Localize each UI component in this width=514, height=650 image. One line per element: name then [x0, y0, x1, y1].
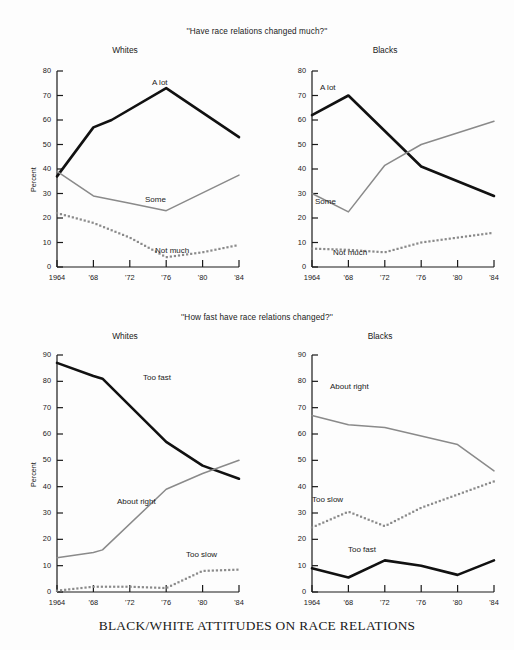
y-tick-label: 50 — [23, 140, 51, 149]
y-tick-label: 10 — [23, 561, 51, 570]
x-tick-label: '84 — [474, 273, 514, 282]
x-tick-label: '80 — [438, 598, 478, 607]
series-annotation-some: Some — [315, 197, 336, 206]
y-tick-label: 10 — [278, 238, 306, 247]
series-too-slow — [311, 480, 495, 528]
y-tick-label: 60 — [278, 429, 306, 438]
y-tick-label: 0 — [278, 262, 306, 271]
chart-figure: ''Have race relations changed much?'' Wh… — [0, 0, 514, 650]
x-tick-label: '72 — [110, 598, 150, 607]
x-tick-label: '68 — [328, 273, 368, 282]
y-tick-label: 0 — [23, 262, 51, 271]
x-tick-label: '76 — [146, 273, 186, 282]
series-a-lot — [312, 96, 494, 196]
y-tick-label: 50 — [278, 140, 306, 149]
x-tick-label: '68 — [73, 273, 113, 282]
y-tick-label: 20 — [23, 534, 51, 543]
series-too-slow — [56, 569, 239, 592]
y-tick-label: 80 — [23, 66, 51, 75]
y-tick-label: 70 — [23, 403, 51, 412]
x-tick-label: '68 — [328, 598, 368, 607]
series-annotation-too-slow: Too slow — [312, 495, 343, 504]
y-tick-label: 50 — [278, 455, 306, 464]
y-tick-label: 90 — [278, 350, 306, 359]
series-annotation-a-lot: A lot — [152, 78, 168, 87]
y-tick-label: 30 — [23, 508, 51, 517]
y-tick-label: 20 — [23, 213, 51, 222]
x-tick-label: '72 — [365, 598, 405, 607]
series-annotation-a-lot: A lot — [320, 83, 336, 92]
series-annotation-too-fast: Too fast — [348, 545, 376, 554]
y-tick-label: 30 — [278, 189, 306, 198]
y-tick-label: 40 — [278, 164, 306, 173]
series-some — [312, 121, 494, 212]
y-tick-label: 80 — [278, 66, 306, 75]
plot-lines-layer — [0, 0, 514, 650]
y-tick-label: 30 — [278, 508, 306, 517]
y-tick-label: 80 — [278, 376, 306, 385]
x-tick-label: '72 — [365, 273, 405, 282]
y-tick-label: 60 — [278, 115, 306, 124]
series-not-much — [56, 212, 237, 258]
x-tick-label: 1964 — [292, 273, 332, 282]
x-tick-label: '84 — [219, 598, 259, 607]
y-tick-label: 90 — [23, 350, 51, 359]
x-tick-label: 1964 — [37, 273, 77, 282]
series-annotation-about-right: About right — [117, 497, 156, 506]
series-annotation-not-much: Not much — [333, 248, 367, 257]
series-too-fast — [312, 560, 494, 577]
y-tick-label: 80 — [23, 376, 51, 385]
y-tick-label: 0 — [278, 587, 306, 596]
series-annotation-about-right: About right — [330, 382, 369, 391]
x-tick-label: '76 — [146, 598, 186, 607]
y-tick-label: 70 — [278, 91, 306, 100]
y-tick-label: 50 — [23, 455, 51, 464]
y-tick-label: 30 — [23, 189, 51, 198]
y-tick-label: 10 — [23, 238, 51, 247]
x-tick-label: '80 — [438, 273, 478, 282]
y-tick-label: 0 — [23, 587, 51, 596]
x-tick-label: '72 — [110, 273, 150, 282]
series-about-right — [57, 460, 239, 557]
y-tick-label: 20 — [278, 213, 306, 222]
figure-caption: BLACK/WHITE ATTITUDES ON RACE RELATIONS — [0, 618, 514, 634]
x-tick-label: '84 — [219, 273, 259, 282]
y-tick-label: 40 — [23, 164, 51, 173]
y-tick-label: 60 — [23, 115, 51, 124]
series-about-right — [312, 416, 494, 471]
y-tick-label: 40 — [23, 482, 51, 491]
x-tick-label: '84 — [474, 598, 514, 607]
series-some — [57, 171, 239, 210]
x-tick-label: 1964 — [37, 598, 77, 607]
y-tick-label: 70 — [278, 403, 306, 412]
series-annotation-too-slow: Too slow — [186, 550, 217, 559]
x-tick-label: '76 — [401, 598, 441, 607]
x-tick-label: 1964 — [292, 598, 332, 607]
x-tick-label: '80 — [183, 273, 223, 282]
series-annotation-some: Some — [145, 195, 166, 204]
x-tick-label: '80 — [183, 598, 223, 607]
x-tick-label: '68 — [73, 598, 113, 607]
x-tick-label: '76 — [401, 273, 441, 282]
series-a-lot — [57, 88, 239, 176]
series-annotation-not-much: Not much — [155, 246, 189, 255]
y-tick-label: 60 — [23, 429, 51, 438]
y-tick-label: 40 — [278, 482, 306, 491]
y-tick-label: 10 — [278, 561, 306, 570]
y-tick-label: 70 — [23, 91, 51, 100]
y-tick-label: 20 — [278, 534, 306, 543]
series-annotation-too-fast: Too fast — [143, 373, 171, 382]
